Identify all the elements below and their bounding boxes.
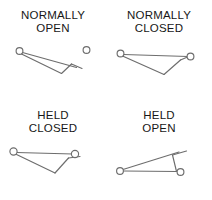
symbol-graphic-normally-open: [0, 38, 106, 96]
symbol-cell-held-closed: HELD CLOSED: [0, 100, 106, 200]
diagram-canvas: NORMALLY OPEN: [0, 0, 212, 200]
symbol-graphic-normally-closed: [106, 38, 212, 96]
symbol-cell-normally-closed: NORMALLY CLOSED: [106, 0, 212, 100]
lever-lower-edge-icon: [124, 171, 177, 172]
symbol-label-normally-closed: NORMALLY CLOSED: [127, 9, 191, 35]
lever-lower-edge-icon: [123, 56, 165, 75]
normally-open-drawing: [0, 38, 106, 96]
lever-tip-bar-icon: [164, 60, 181, 75]
lever-upper-edge-icon: [123, 152, 179, 170]
pivot-terminal-icon: [10, 148, 17, 155]
symbol-grid: NORMALLY OPEN: [0, 0, 212, 200]
contact-terminal-icon: [187, 53, 194, 60]
held-closed-drawing: [0, 138, 106, 196]
normally-closed-drawing: [106, 38, 212, 96]
lever-tip-bar-icon: [173, 155, 177, 172]
symbol-label-held-open: HELD OPEN: [142, 109, 175, 135]
symbol-cell-normally-open: NORMALLY OPEN: [0, 0, 106, 100]
lever-tip-bar-icon: [55, 158, 69, 173]
lever-upper-edge-icon: [124, 55, 189, 57]
lever-lower-edge-icon: [16, 154, 56, 173]
symbol-label-normally-open: NORMALLY OPEN: [21, 9, 85, 35]
contact-terminal-icon: [83, 47, 90, 54]
pivot-terminal-icon: [16, 48, 23, 55]
contact-terminal-icon: [177, 169, 184, 176]
lever-tail-icon: [181, 57, 188, 60]
symbol-graphic-held-open: [106, 138, 212, 196]
pivot-terminal-icon: [117, 50, 124, 57]
symbol-label-held-closed: HELD CLOSED: [29, 109, 78, 135]
lever-lower-edge-icon: [22, 54, 62, 74]
lever-upper-edge-icon: [23, 53, 77, 68]
pivot-terminal-icon: [117, 168, 124, 175]
symbol-graphic-held-closed: [0, 138, 106, 196]
contact-terminal-icon: [71, 150, 78, 157]
lever-tip-bar-icon: [62, 64, 72, 74]
lever-upper-edge-icon: [17, 153, 74, 155]
held-open-drawing: [106, 138, 212, 196]
symbol-cell-held-open: HELD OPEN: [106, 100, 212, 200]
